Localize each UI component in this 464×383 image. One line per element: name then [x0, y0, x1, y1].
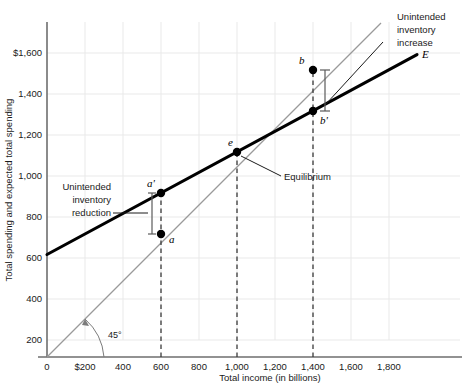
annotation-reduction-line2: inventory — [72, 194, 111, 205]
annotation-increase-line3: increase — [397, 37, 433, 48]
data-point-b-prime — [309, 107, 317, 115]
economics-expenditure-chart: 45° E a a' e b b' — [0, 0, 464, 383]
y-axis-title: Total spending and expected total spendi… — [3, 99, 14, 282]
y-tick-200: 200 — [26, 334, 42, 345]
x-tick-1800: 1,800 — [377, 361, 401, 372]
y-tick-1200: 1,200 — [18, 129, 42, 140]
y-tick-1400: 1,400 — [18, 88, 42, 99]
x-tick-600: 600 — [153, 361, 169, 372]
data-point-a — [157, 230, 165, 238]
annotation-reduction-line3: reduction — [72, 207, 111, 218]
x-tick-1600: 1,600 — [339, 361, 363, 372]
x-tick-1200: 1,200 — [263, 361, 287, 372]
x-tick-400: 400 — [115, 361, 131, 372]
data-point-e-label: e — [228, 136, 233, 148]
expenditure-line-E — [47, 55, 417, 255]
x-tick-800: 800 — [191, 361, 207, 372]
x-tick-200: $200 — [74, 361, 95, 372]
x-axis-title: Total income (in billions) — [219, 372, 320, 383]
annotation-equilibrium: Equilibrium — [284, 171, 331, 182]
y-tick-1600: $1,600 — [13, 47, 42, 58]
expenditure-line-label: E — [421, 48, 429, 60]
chart-container: 45° E a a' e b b' — [0, 0, 464, 383]
y-tick-400: 400 — [26, 293, 42, 304]
data-point-b — [309, 66, 317, 74]
data-point-a-prime — [157, 189, 165, 197]
x-tick-0: 0 — [44, 361, 49, 372]
x-tick-1000: 1,000 — [225, 361, 249, 372]
annotation-reduction-line1: Unintended — [62, 181, 111, 192]
y-tick-800: 800 — [26, 211, 42, 222]
data-point-b-prime-label: b' — [320, 114, 329, 126]
x-tick-1400: 1,400 — [301, 361, 325, 372]
leader-line-inventory-increase — [326, 42, 383, 104]
angle-45-label: 45° — [108, 330, 122, 340]
annotation-unintended-inventory-reduction: Unintended inventory reduction — [62, 181, 111, 218]
data-point-a-prime-label: a' — [147, 177, 156, 189]
annotation-increase-line2: inventory — [397, 24, 436, 35]
data-point-b-label: b — [299, 54, 305, 66]
y-tick-1000: 1,000 — [18, 170, 42, 181]
data-point-a-label: a — [169, 233, 175, 245]
y-axis-tick-labels: $1,600 1,400 1,200 1,000 800 600 400 200 — [13, 47, 42, 345]
y-tick-600: 600 — [26, 252, 42, 263]
annotation-unintended-inventory-increase: Unintended inventory increase — [397, 11, 446, 48]
data-point-e — [233, 148, 241, 156]
annotation-increase-line1: Unintended — [397, 11, 446, 22]
x-axis-tick-labels: 0 $200 400 600 800 1,000 1,200 1,400 1,6… — [44, 361, 401, 372]
